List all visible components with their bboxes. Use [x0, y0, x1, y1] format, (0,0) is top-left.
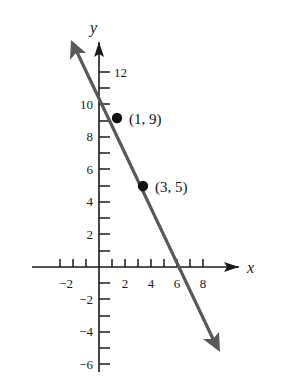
x-tick-label--2: −2: [59, 276, 73, 291]
coordinate-plane-graph: x y −2 2 4 6 8 12 10 8 6 4 2 −2 −4 −6 (1…: [0, 0, 284, 385]
data-point-3-5: [138, 181, 148, 191]
x-tick-label-8: 8: [200, 276, 207, 291]
x-tick-label-6: 6: [174, 276, 181, 291]
y-tick-label-6: 6: [87, 162, 94, 177]
x-tick-label-4: 4: [148, 276, 155, 291]
x-axis: [32, 259, 239, 272]
y-tick-label-10: 10: [80, 97, 93, 112]
line-segment: [76, 50, 214, 341]
y-tick-label--6: −6: [79, 357, 93, 372]
y-tick-label-12: 12: [114, 65, 127, 80]
x-tick-label-2: 2: [122, 276, 129, 291]
x-axis-ticks: [60, 259, 203, 267]
x-axis-label: x: [246, 259, 254, 276]
point-label-1-9: (1, 9): [129, 111, 162, 128]
data-point-1-9: [112, 113, 122, 123]
point-label-3-5: (3, 5): [155, 179, 188, 196]
y-tick-label-8: 8: [87, 129, 94, 144]
y-tick-label-2: 2: [87, 227, 94, 242]
y-axis-label: y: [88, 19, 98, 37]
y-tick-label-4: 4: [87, 194, 94, 209]
graph-svg: x y −2 2 4 6 8 12 10 8 6 4 2 −2 −4 −6 (1…: [0, 0, 284, 385]
y-tick-label--4: −4: [79, 324, 93, 339]
y-tick-label--2: −2: [79, 292, 93, 307]
